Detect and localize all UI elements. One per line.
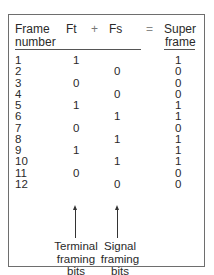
cell-fs: 0 bbox=[114, 179, 120, 190]
cell-ft: 1 bbox=[73, 100, 79, 111]
cell-ft: 1 bbox=[73, 145, 79, 156]
cell-superframe: 0 bbox=[175, 179, 181, 190]
cell-fs: 0 bbox=[114, 66, 120, 77]
signal-framing-label: Signal framing bits bbox=[100, 240, 140, 275]
cell-fs: 1 bbox=[114, 156, 120, 167]
cell-superframe: 0 bbox=[175, 66, 181, 77]
signal-label-line2: framing bbox=[100, 253, 140, 266]
cell-ft: 1 bbox=[73, 55, 79, 66]
cell-superframe: 1 bbox=[175, 156, 181, 167]
cell-ft: 0 bbox=[73, 168, 79, 179]
terminal-label-line2: framing bbox=[52, 253, 100, 266]
cell-frame-number: 6 bbox=[15, 111, 21, 122]
cell-fs: 1 bbox=[114, 111, 120, 122]
signal-arrow-shaft bbox=[117, 209, 118, 238]
cell-frame-number: 2 bbox=[15, 66, 21, 77]
cell-frame-number: 10 bbox=[15, 156, 28, 167]
cell-fs: 1 bbox=[114, 134, 120, 145]
cell-fs: 0 bbox=[114, 89, 120, 100]
header-ft: Ft bbox=[66, 23, 77, 36]
header-plus: + bbox=[91, 23, 98, 36]
signal-label-line3: bits bbox=[100, 265, 140, 275]
header-fs: Fs bbox=[109, 23, 122, 36]
cell-ft: 0 bbox=[73, 78, 79, 89]
header-rule bbox=[15, 49, 141, 50]
header-equals: = bbox=[146, 23, 153, 36]
terminal-label-line3: bits bbox=[52, 265, 100, 275]
cell-superframe: 1 bbox=[175, 111, 181, 122]
superframe-underline bbox=[164, 49, 195, 50]
terminal-framing-label: Terminal framing bits bbox=[52, 240, 100, 275]
signal-label-line1: Signal bbox=[100, 240, 140, 253]
terminal-label-line1: Terminal bbox=[52, 240, 100, 253]
cell-ft: 0 bbox=[73, 123, 79, 134]
cell-frame-number: 12 bbox=[15, 179, 28, 190]
terminal-arrow-shaft bbox=[75, 209, 76, 238]
header-superframe-line2: frame bbox=[165, 36, 196, 49]
header-frame-number-line2: number bbox=[15, 36, 56, 49]
